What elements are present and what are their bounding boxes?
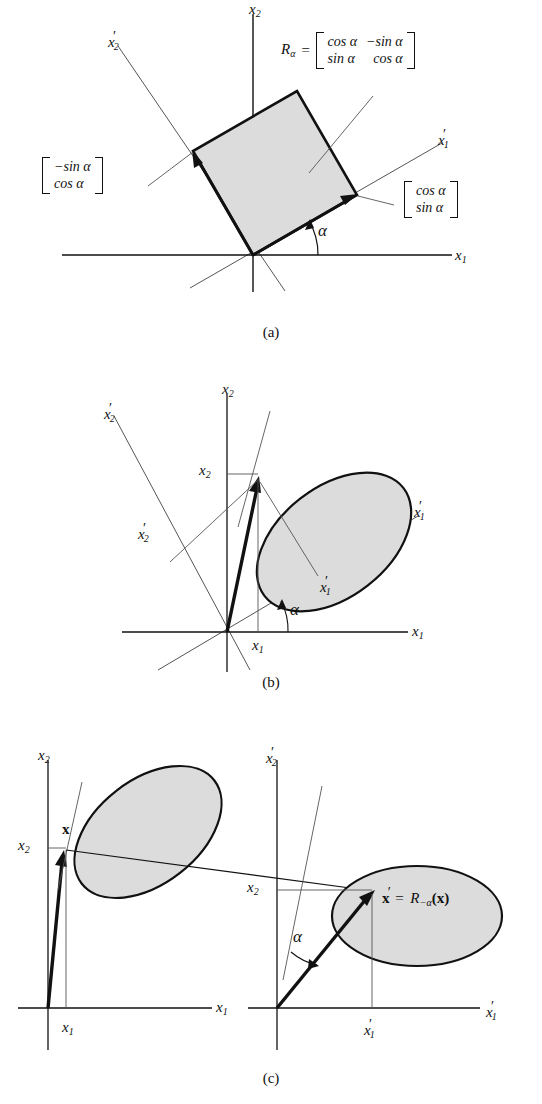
matrix-bracket-left (316, 32, 324, 69)
left-vector-leader-line (148, 152, 193, 186)
right-vector-leader-line (358, 196, 394, 205)
panel-b-x1-prime-coordinate-label: x′1 (320, 575, 331, 597)
first-column-vector: cos α sin α (404, 181, 458, 218)
matrix-cell-21: sin α (328, 51, 355, 68)
equation-argument: (x) (432, 890, 450, 906)
panel-a-x2-prime-axis-label: x′2 (108, 30, 119, 52)
right-vector-row-1: cos α (416, 183, 446, 200)
equation-equals: = (395, 890, 403, 906)
panel-b-x1-coordinate-label: x1 (252, 638, 264, 655)
panel-b-graphic (0, 370, 542, 700)
panel-c-left-x1-coordinate-label: x1 (62, 1020, 74, 1037)
panel-c-right-x2-prime-axis-label: x′2 (266, 746, 277, 768)
panel-b-x2-prime-axis-label: x′2 (104, 402, 115, 424)
panel-b-x1-axis-label: x1 (412, 624, 424, 641)
panel-c-right-x2-coordinate-label: x2 (247, 880, 259, 897)
caption-b: (b) (0, 674, 542, 691)
left-vector-row-2: cos α (54, 176, 91, 193)
left-vector-body: −sin α cos α (50, 157, 95, 194)
matrix-cell-11: cos α (328, 34, 358, 51)
x-vector-arrow (227, 476, 261, 632)
panel-b-x2-coordinate-label: x2 (199, 463, 211, 480)
matrix-row-1: cos α −sin α (328, 34, 403, 51)
panel-c-alpha-label: α (293, 928, 302, 945)
panel-b: x2 x1 x′2 x′1 x2 x1 x′2 x′1 α (b) (0, 370, 542, 700)
equation-lhs: x (382, 890, 390, 906)
panel-c: x2 x1 x2 x1 x x′2 x′1 x2 x′1 α x′ = R−α( (0, 700, 542, 1104)
rotated-unit-square (193, 91, 357, 255)
right-vector-body: cos α sin α (412, 181, 450, 218)
right-vector-row-2: sin α (416, 200, 446, 217)
rotation-matrix-expression: Rα = cos α −sin α sin α cos α (281, 32, 415, 69)
panel-b-x2-axis-label: x2 (222, 382, 234, 399)
panel-b-x2-prime-coordinate-label: x′2 (138, 522, 149, 544)
panel-c-right-x1-prime-axis-label: x′1 (486, 1000, 497, 1022)
matrix-cell-12: −sin α (366, 34, 403, 51)
panel-a-x2-axis-label: x2 (249, 2, 261, 19)
panel-c-left-x1-axis-label: x1 (216, 1000, 228, 1017)
panel-a-x1-axis-label: x1 (455, 248, 467, 265)
panel-c-left-x2-coordinate-label: x2 (18, 838, 30, 855)
rotation-matrix-equals: = (300, 42, 310, 60)
rotated-vector-equation: x′ = R−α(x) (382, 886, 449, 908)
data-ellipse (231, 444, 437, 639)
second-column-vector: −sin α cos α (42, 157, 103, 194)
equation-operator: R−α (410, 890, 431, 906)
panel-a: x2 x1 x′2 x′1 α Rα = cos α −sin α sin α (0, 0, 542, 370)
left-vector-row-1: −sin α (54, 159, 91, 176)
left-x-vector-arrow (48, 850, 67, 1008)
left-vector-bracket-left (42, 157, 50, 194)
panel-b-x1-prime-axis-label: x′1 (414, 500, 425, 522)
right-data-ellipse (332, 866, 502, 966)
left-data-ellipse (50, 739, 246, 924)
caption-a: (a) (0, 324, 542, 341)
panel-a-alpha-label: α (318, 222, 327, 239)
rotation-matrix-lead: Rα (281, 41, 295, 60)
matrix-body: cos α −sin α sin α cos α (324, 32, 407, 69)
figure-page: x2 x1 x′2 x′1 α Rα = cos α −sin α sin α (0, 0, 542, 1104)
caption-c: (c) (0, 1070, 542, 1087)
left-vector-bracket-right (95, 157, 103, 194)
panel-a-x1-prime-axis-label: x′1 (438, 128, 449, 150)
panel-c-point-x-label: x (62, 822, 70, 837)
panel-b-alpha-label: α (290, 601, 299, 618)
matrix-row-2: sin α cos α (328, 51, 403, 68)
matrix-bracket-right (407, 32, 415, 69)
right-vector-bracket-left (404, 181, 412, 218)
matrix-cell-22: cos α (373, 51, 403, 68)
panel-c-left-x2-axis-label: x2 (38, 748, 50, 765)
right-vector-bracket-right (450, 181, 458, 218)
panel-c-right-x1-prime-coordinate-label: x′1 (364, 1018, 375, 1040)
